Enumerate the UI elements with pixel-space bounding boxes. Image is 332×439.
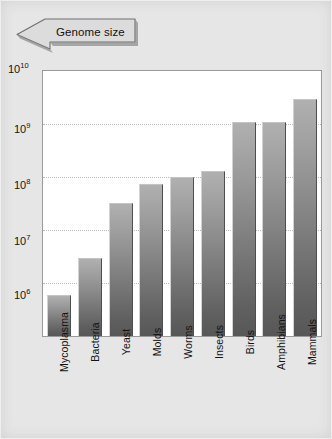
x-label-molds: Molds — [139, 340, 163, 436]
bar-yeast — [109, 203, 133, 336]
bar-amphibians — [262, 122, 286, 336]
callout-label: Genome size — [56, 26, 125, 38]
x-label-yeast: Yeast — [108, 340, 132, 436]
bar-series — [43, 71, 321, 336]
x-label-text: Birds — [244, 330, 256, 354]
x-label-birds: Birds — [232, 340, 256, 436]
bar-mammals — [293, 99, 317, 336]
x-label-text: Mycoplasma — [58, 312, 70, 372]
bar-molds — [139, 184, 163, 336]
x-label-text: Molds — [151, 328, 163, 357]
x-label-worms: Worms — [170, 340, 194, 436]
x-label-bacteria: Bacteria — [77, 340, 101, 436]
x-label-text: Bacteria — [89, 322, 101, 361]
x-label-text: Yeast — [120, 329, 132, 355]
plot-area — [42, 70, 322, 337]
bar-birds — [232, 122, 256, 336]
x-label-text: Amphibians — [275, 314, 287, 370]
x-label-mammals: Mammals — [294, 340, 318, 436]
x-label-text: Insects — [213, 325, 225, 359]
genome-size-callout: Genome size — [14, 16, 138, 58]
bar-insects — [201, 171, 225, 336]
x-label-text: Worms — [182, 325, 194, 359]
bar-worms — [170, 177, 194, 336]
x-label-insects: Insects — [201, 340, 225, 436]
x-label-mycoplasma: Mycoplasma — [46, 340, 70, 436]
x-label-text: Mammals — [306, 319, 318, 365]
genome-size-figure: Genome size 1010 109 108 107 106 Mycopla… — [0, 0, 332, 439]
x-label-amphibians: Amphibians — [263, 340, 287, 436]
x-axis-labels: Mycoplasma Bacteria Yeast Molds Worms In… — [42, 340, 322, 436]
